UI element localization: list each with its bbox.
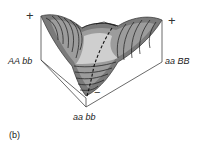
valley-sign: − xyxy=(94,87,100,98)
genotype-label-right: aa BB xyxy=(165,56,190,66)
left-peak-sign: + xyxy=(26,9,34,22)
fitness-landscape-diagram: + + − AA bb aa BB aa bb (b) xyxy=(0,0,204,147)
genotype-label-left: AA bb xyxy=(8,56,32,66)
panel-label: (b) xyxy=(9,130,20,140)
right-peak-sign: + xyxy=(168,14,176,27)
genotype-label-bottom: aa bb xyxy=(73,112,96,122)
